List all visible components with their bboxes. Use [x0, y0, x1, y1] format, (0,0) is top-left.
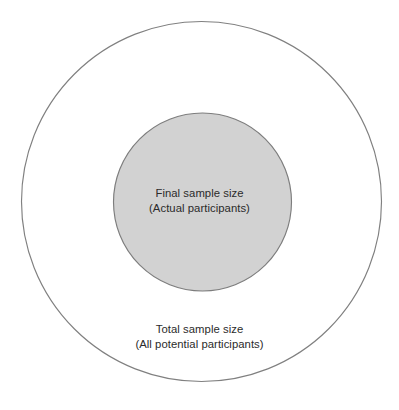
figure-canvas: Final sample size (Actual participants) …: [0, 0, 399, 410]
inner-circle-final-sample: [114, 113, 292, 291]
nested-circles-diagram: [0, 0, 399, 410]
